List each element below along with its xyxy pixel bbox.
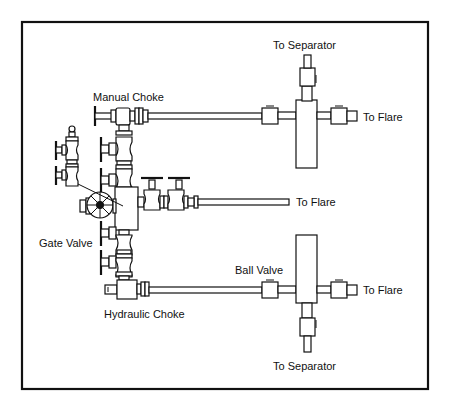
label-to-flare-bottom: To Flare — [363, 284, 403, 296]
ball-valve-lower-inlet — [262, 280, 296, 298]
manual-choke-line — [95, 106, 262, 126]
side-valve-assembly — [56, 126, 123, 206]
gate-valve-handwheel — [80, 192, 116, 218]
label-to-separator-top: To Separator — [273, 39, 336, 51]
label-to-separator-bottom: To Separator — [273, 360, 336, 372]
choke-manifold-diagram: To Separator Manual Choke To Flare To Fl… — [0, 0, 450, 412]
lower-cross — [296, 235, 357, 352]
gate-valve-stack-upper — [101, 125, 132, 193]
hydraulic-choke-line — [105, 280, 262, 299]
label-gate-valve: Gate Valve — [39, 237, 93, 249]
ball-valve-lower-separator — [300, 318, 315, 336]
label-hydraulic-choke: Hydraulic Choke — [104, 308, 185, 320]
lower-pipe — [149, 287, 262, 293]
ball-valve-upper-flare — [331, 108, 347, 124]
label-manual-choke: Manual Choke — [93, 91, 164, 103]
middle-pipe — [198, 199, 289, 205]
label-ball-valve: Ball Valve — [235, 264, 283, 276]
manifold-center-block — [115, 187, 138, 230]
middle-flare-line — [138, 178, 289, 210]
upper-cross — [296, 55, 357, 168]
gate-valve-stack-lower — [101, 221, 132, 280]
hydraulic-choke-body — [117, 280, 137, 299]
ball-valve-lower-flare — [331, 282, 347, 298]
upper-pipe — [148, 113, 262, 119]
ball-valve-upper-separator — [300, 68, 315, 86]
label-to-flare-middle: To Flare — [296, 196, 336, 208]
manual-choke-body — [116, 108, 130, 125]
label-to-flare-top: To Flare — [363, 111, 403, 123]
ball-valve-upper-inlet — [262, 106, 296, 124]
